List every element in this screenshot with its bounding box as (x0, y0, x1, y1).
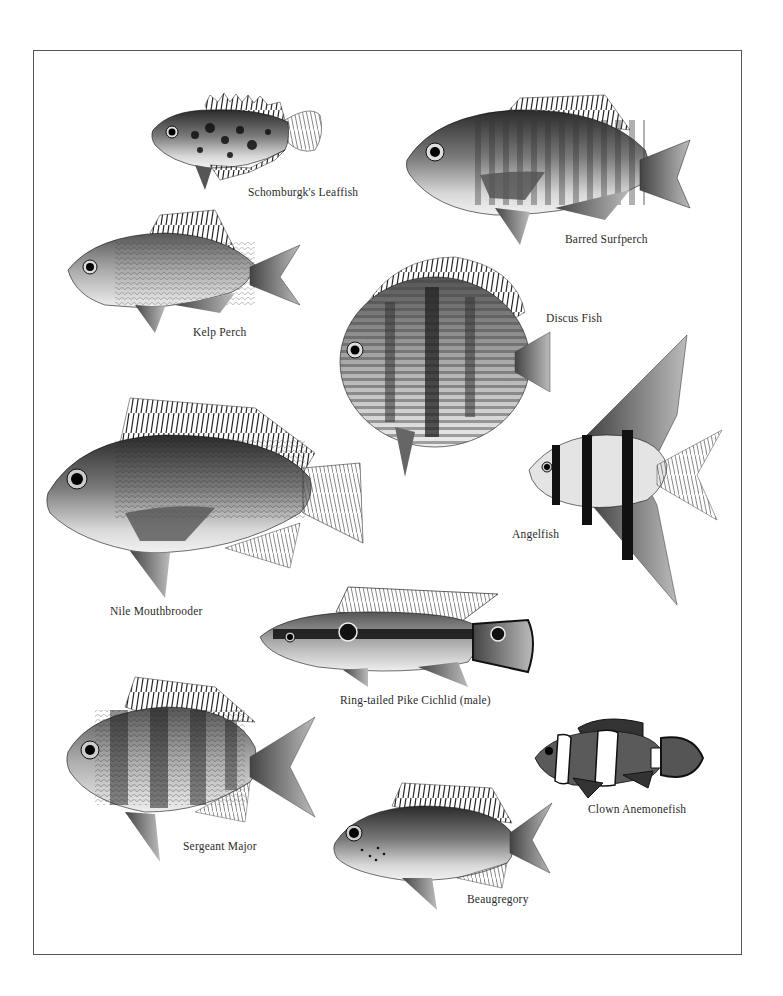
caption-leaffish: Schomburgk's Leaffish (248, 186, 358, 198)
caption-kelp-perch: Kelp Perch (193, 326, 246, 338)
clown-anemonefish-illustration (533, 713, 708, 798)
leaffish-illustration (150, 90, 325, 200)
nile-mouthbrooder-illustration (45, 393, 365, 598)
caption-clown-anemonefish: Clown Anemonefish (588, 803, 686, 815)
kelp-perch-illustration (65, 205, 305, 335)
caption-sergeant-major: Sergeant Major (183, 840, 257, 852)
caption-discus: Discus Fish (546, 312, 602, 324)
surfperch-illustration (405, 90, 695, 250)
caption-surfperch: Barred Surfperch (565, 233, 648, 245)
caption-nile-mouthbrooder: Nile Mouthbrooder (110, 605, 203, 617)
caption-pike-cichlid: Ring-tailed Pike Cichlid (male) (340, 694, 491, 706)
caption-beaugregory: Beaugregory (467, 893, 529, 905)
sergeant-major-illustration (65, 672, 320, 862)
caption-angelfish: Angelfish (512, 528, 559, 540)
angelfish-illustration (527, 335, 727, 615)
